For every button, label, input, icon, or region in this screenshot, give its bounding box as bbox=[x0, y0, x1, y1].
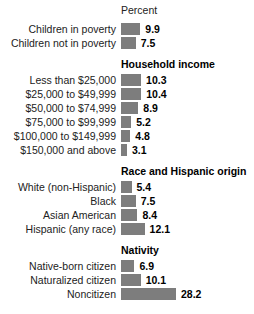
bar-label: $25,000 to $49,999 bbox=[0, 87, 116, 101]
bar-value-label: 5.2 bbox=[136, 115, 151, 129]
bar-label: Hispanic (any race) bbox=[0, 222, 116, 236]
bar-label: Noncitizen bbox=[0, 287, 116, 301]
bar-label: Asian American bbox=[0, 208, 116, 222]
bar-value-label: 10.3 bbox=[146, 73, 166, 87]
bar-row: $100,000 to $149,9994.8 bbox=[0, 129, 254, 143]
bar-row: Native-born citizen6.9 bbox=[0, 259, 254, 273]
bar-value-label: 9.9 bbox=[145, 22, 160, 36]
bar bbox=[121, 288, 176, 300]
bar-row: $150,000 and above3.1 bbox=[0, 143, 254, 157]
bar bbox=[121, 102, 138, 114]
bar-row: $25,000 to $49,99910.4 bbox=[0, 87, 254, 101]
bar-chart: Percent Children in poverty9.9Children n… bbox=[0, 0, 254, 314]
bar-row: Children not in poverty7.5 bbox=[0, 36, 254, 50]
bar-row: Less than $25,00010.3 bbox=[0, 73, 254, 87]
bar-row: Black7.5 bbox=[0, 194, 254, 208]
bar-value-label: 3.1 bbox=[132, 143, 147, 157]
bar-label: $75,000 to $99,999 bbox=[0, 115, 116, 129]
bar-value-label: 6.9 bbox=[139, 259, 154, 273]
bar-row: White (non-Hispanic)5.4 bbox=[0, 180, 254, 194]
group-title: Nativity bbox=[121, 244, 159, 256]
group-title: Race and Hispanic origin bbox=[121, 165, 246, 177]
bar-label: $50,000 to $74,999 bbox=[0, 101, 116, 115]
bar-row: Naturalized citizen10.1 bbox=[0, 273, 254, 287]
bar bbox=[121, 144, 127, 156]
bar bbox=[121, 209, 137, 221]
bar-label: Children not in poverty bbox=[0, 36, 116, 50]
bar bbox=[121, 74, 141, 86]
bar-row: $50,000 to $74,9998.9 bbox=[0, 101, 254, 115]
bar bbox=[121, 88, 141, 100]
bar bbox=[121, 195, 136, 207]
bar-value-label: 7.5 bbox=[141, 194, 156, 208]
bar-value-label: 10.1 bbox=[146, 273, 166, 287]
bar-label: Black bbox=[0, 194, 116, 208]
bar-value-label: 4.8 bbox=[135, 129, 150, 143]
bar bbox=[121, 37, 136, 49]
bar bbox=[121, 260, 134, 272]
bar-label: Naturalized citizen bbox=[0, 273, 116, 287]
bar-value-label: 5.4 bbox=[137, 180, 152, 194]
bar-value-label: 10.4 bbox=[146, 87, 166, 101]
bar-value-label: 28.2 bbox=[181, 287, 201, 301]
bar-row: Children in poverty9.9 bbox=[0, 22, 254, 36]
bar bbox=[121, 130, 130, 142]
axis-title-percent: Percent bbox=[121, 4, 157, 16]
bar-value-label: 12.1 bbox=[150, 222, 170, 236]
bar bbox=[121, 116, 131, 128]
bar-label: Children in poverty bbox=[0, 22, 116, 36]
bar bbox=[121, 223, 145, 235]
group-title: Household income bbox=[121, 58, 215, 70]
bar bbox=[121, 181, 132, 193]
bar-value-label: 8.4 bbox=[142, 208, 157, 222]
bar bbox=[121, 23, 140, 35]
bar-row: $75,000 to $99,9995.2 bbox=[0, 115, 254, 129]
bar-value-label: 8.9 bbox=[143, 101, 158, 115]
bar-label: Less than $25,000 bbox=[0, 73, 116, 87]
bar-row: Noncitizen28.2 bbox=[0, 287, 254, 301]
bar-label: $150,000 and above bbox=[0, 143, 116, 157]
bar bbox=[121, 274, 141, 286]
bar-label: White (non-Hispanic) bbox=[0, 180, 116, 194]
bar-value-label: 7.5 bbox=[141, 36, 156, 50]
bar-row: Asian American8.4 bbox=[0, 208, 254, 222]
bar-label: $100,000 to $149,999 bbox=[0, 129, 116, 143]
bar-row: Hispanic (any race)12.1 bbox=[0, 222, 254, 236]
bar-label: Native-born citizen bbox=[0, 259, 116, 273]
